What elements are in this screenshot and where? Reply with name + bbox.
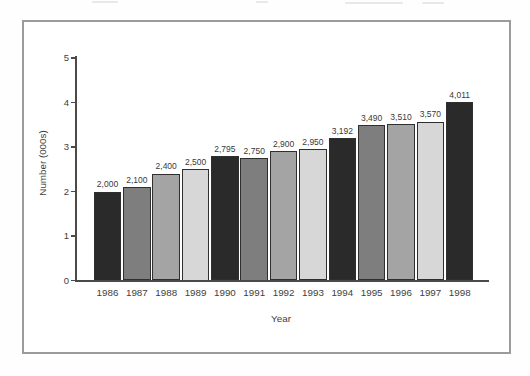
chart-figure: 012345 2,00019862,10019872,40019882,5001… [0, 0, 530, 376]
y-tick-label: 4 [51, 97, 69, 108]
bar-1996 [387, 124, 415, 280]
bar-value-label: 2,100 [115, 175, 159, 185]
bar-1991 [240, 158, 268, 280]
x-tick-label: 1998 [442, 287, 478, 298]
bar-1994 [329, 138, 357, 280]
bar-1992 [270, 151, 298, 280]
bar-value-label: 2,500 [174, 157, 218, 167]
y-tick-mark [71, 191, 76, 193]
y-tick-label: 0 [51, 275, 69, 286]
cropped-text-artifact [92, 1, 118, 3]
y-tick-mark [71, 235, 76, 237]
y-tick-mark [71, 280, 76, 282]
bar-1990 [211, 156, 239, 280]
bar-1989 [182, 169, 210, 280]
y-tick-label: 1 [51, 230, 69, 241]
bar-value-label: 2,950 [291, 137, 335, 147]
bar-1993 [299, 149, 327, 280]
cropped-text-artifact [256, 1, 268, 3]
x-axis-title: Year [241, 313, 321, 324]
bar-value-label: 4,011 [438, 90, 482, 100]
y-tick-label: 5 [51, 52, 69, 63]
cropped-text-artifact [345, 2, 403, 4]
y-tick-label: 2 [51, 186, 69, 197]
bar-value-label: 3,192 [320, 126, 364, 136]
bar-1988 [152, 174, 180, 281]
y-axis-line [75, 56, 77, 281]
y-axis-title: Number (000s) [37, 130, 48, 195]
y-tick-mark [71, 146, 76, 148]
y-tick-mark [71, 57, 76, 59]
bar-1997 [417, 122, 445, 281]
x-axis-line [75, 280, 489, 282]
bar-1995 [358, 125, 386, 280]
cropped-text-artifact [422, 2, 444, 4]
bar-1998 [446, 102, 474, 280]
bar-value-label: 3,570 [408, 109, 452, 119]
bar-1986 [94, 192, 122, 281]
y-tick-mark [71, 102, 76, 104]
bar-1987 [123, 187, 151, 280]
y-tick-label: 3 [51, 141, 69, 152]
